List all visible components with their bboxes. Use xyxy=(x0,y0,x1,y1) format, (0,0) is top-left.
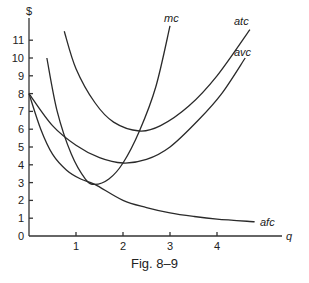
curve-avc xyxy=(29,58,245,163)
curve-afc xyxy=(29,94,255,222)
y-tick-label: 2 xyxy=(18,194,24,206)
y-tick-label: 8 xyxy=(18,88,24,100)
y-tick-label: 0 xyxy=(18,230,24,242)
label-avc: avc xyxy=(234,46,252,58)
figure-caption: Fig. 8–9 xyxy=(0,256,309,271)
y-tick-label: 4 xyxy=(18,159,24,171)
x-tick-label: 4 xyxy=(214,240,220,252)
x-tick-label: 1 xyxy=(73,240,79,252)
y-tick-label: 7 xyxy=(18,105,24,117)
label-afc: afc xyxy=(260,216,275,228)
y-tick-label: 5 xyxy=(18,141,24,153)
y-tick-label: 9 xyxy=(18,70,24,82)
x-axis-label: q xyxy=(286,230,293,242)
y-axis-label: $ xyxy=(26,5,32,17)
curve-labels: mcatcavcafc xyxy=(164,12,275,228)
y-tick-label: 3 xyxy=(18,177,24,189)
label-atc: atc xyxy=(234,15,249,27)
curves xyxy=(29,26,255,222)
y-tick-label: 10 xyxy=(12,52,24,64)
label-mc: mc xyxy=(164,12,179,24)
x-tick-label: 3 xyxy=(167,240,173,252)
y-tick-label: 11 xyxy=(13,34,24,46)
y-tick-label: 1 xyxy=(18,212,24,224)
x-tick-label: 2 xyxy=(120,240,126,252)
cost-curves-chart: $q012345678910111234 mcatcavcafc xyxy=(0,0,309,283)
y-tick-label: 6 xyxy=(18,123,24,135)
